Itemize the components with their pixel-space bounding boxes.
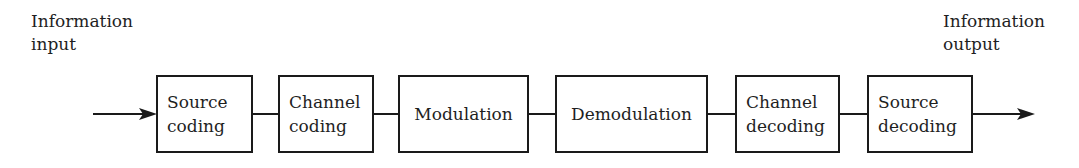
- channel-decoding-block: Channel decoding: [735, 75, 840, 153]
- connector-3: [529, 113, 555, 115]
- modulation-block: Modulation: [398, 75, 529, 153]
- channel-coding-label: Channel coding: [280, 90, 361, 138]
- output-label-line2: output: [943, 33, 1045, 56]
- connector-4: [708, 113, 735, 115]
- source-coding-label: Source coding: [158, 90, 228, 138]
- channel-decoding-label: Channel decoding: [737, 90, 825, 138]
- information-output-label: Information output: [943, 10, 1045, 56]
- input-arrow-icon: [93, 105, 157, 125]
- modulation-label: Modulation: [414, 102, 513, 126]
- source-decoding-block: Source decoding: [867, 75, 973, 153]
- demodulation-block: Demodulation: [555, 75, 708, 153]
- output-label-line1: Information: [943, 10, 1045, 33]
- connector-1: [253, 113, 278, 115]
- source-coding-block: Source coding: [156, 75, 253, 153]
- input-label-line1: Information: [31, 10, 133, 33]
- output-arrow-icon: [973, 105, 1037, 125]
- demodulation-label: Demodulation: [571, 102, 692, 126]
- input-label-line2: input: [31, 33, 133, 56]
- source-decoding-label: Source decoding: [869, 90, 957, 138]
- connector-2: [374, 113, 398, 115]
- channel-coding-block: Channel coding: [278, 75, 374, 153]
- connector-5: [840, 113, 867, 115]
- information-input-label: Information input: [31, 10, 133, 56]
